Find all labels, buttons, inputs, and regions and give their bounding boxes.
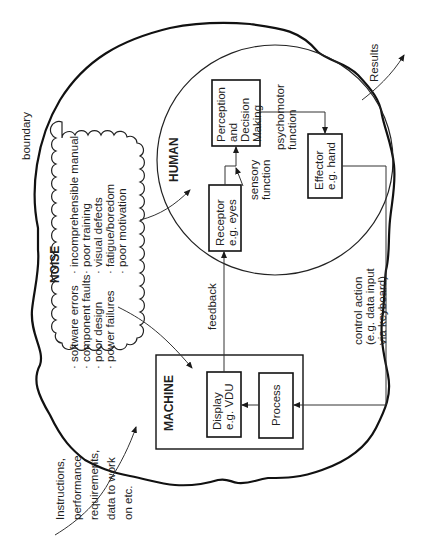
boundary-label: boundary bbox=[20, 112, 32, 160]
perception-label: Perception and Decision Making bbox=[215, 87, 263, 142]
noise-machine-items: · software errors · component faults · p… bbox=[68, 274, 116, 369]
control-action-label: control action (e.g. data input via keyb… bbox=[352, 268, 388, 345]
noise-to-human-arrow bbox=[140, 190, 190, 220]
noise-to-machine-arrow bbox=[118, 307, 192, 368]
noise-title: NOISE bbox=[49, 246, 61, 283]
feedback-label: feedback bbox=[206, 283, 218, 330]
display-label: Display e.g. VDU bbox=[211, 383, 235, 430]
input-label: Instructions, performance requirements, … bbox=[52, 450, 137, 520]
sensory-function-label: sensory function bbox=[248, 160, 272, 200]
sensory-pointer bbox=[236, 168, 243, 186]
sensory-connector bbox=[225, 147, 236, 185]
machine-title: MACHINE bbox=[163, 375, 175, 431]
receptor-label: Receptor e.g. eyes bbox=[214, 199, 238, 246]
noise-human-items: · incomprehensible manual · poor trainin… bbox=[68, 136, 128, 274]
results-label: Results bbox=[368, 44, 380, 82]
process-label: Process bbox=[270, 384, 282, 426]
psychomotor-function-label: psychomotor function bbox=[274, 84, 298, 150]
human-title: HUMAN bbox=[168, 137, 180, 182]
effector-label: Effector e.g. hand bbox=[313, 142, 337, 190]
human-circle bbox=[157, 45, 393, 275]
